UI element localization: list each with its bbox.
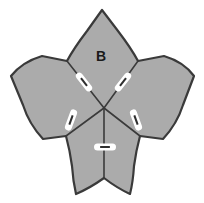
petal-label-b: B: [96, 48, 106, 64]
tick-lower-left: [68, 113, 73, 127]
label-group: B: [96, 48, 106, 64]
petal-group: [11, 10, 194, 194]
flower-diagram-figure: B: [0, 0, 204, 203]
flower-diagram-canvas: B: [0, 0, 204, 203]
tick-lower-right: [133, 113, 138, 127]
